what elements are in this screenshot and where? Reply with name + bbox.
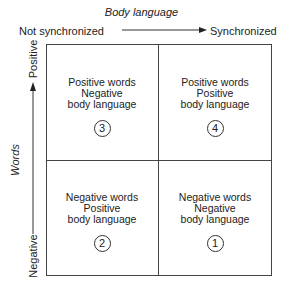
x-axis-arrowhead-icon [199,27,207,33]
x-axis-title: Body language [0,6,283,18]
quadrant-line3: body language [46,99,158,110]
quadrant-line3: body language [46,214,158,225]
circled-number-3: 3 [94,120,111,137]
quadrant-top-right: Positive words Positive body language 4 [159,77,271,137]
y-axis-arrowhead-icon [30,82,36,91]
y-axis-bottom-label: Negative [27,234,39,277]
y-axis-title: Words [9,144,21,176]
circled-number-1: 1 [207,235,224,252]
x-axis-right-label: Synchronized [210,25,277,37]
x-axis-left-label: Not synchronized [19,25,104,37]
quadrant-top-left: Positive words Negative body language 3 [46,77,158,137]
y-axis-top-label: Positive [27,40,39,79]
quadrant-bottom-left: Negative words Positive body language 2 [46,192,158,252]
quadrant-bottom-right: Negative words Negative body language 1 [159,192,271,252]
grid-horizontal-divider [46,160,272,161]
circled-number-2: 2 [94,235,111,252]
circled-number-4: 4 [207,120,224,137]
quadrant-line3: body language [159,99,271,110]
quadrant-line3: body language [159,214,271,225]
